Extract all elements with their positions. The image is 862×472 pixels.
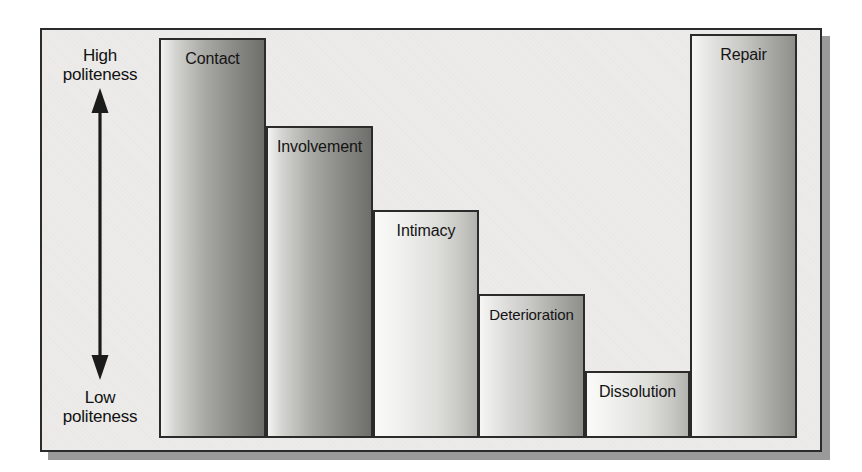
figure-stage: High politeness Low politeness ContactIn… — [0, 0, 862, 472]
bar-label-dissolution: Dissolution — [587, 383, 688, 401]
bar-label-intimacy: Intimacy — [375, 222, 477, 240]
bar-contact: Contact — [159, 38, 266, 438]
bar-label-deterioration: Deterioration — [480, 306, 583, 324]
bar-repair: Repair — [690, 34, 797, 438]
bar-label-involvement: Involvement — [268, 138, 371, 156]
bars-layer: ContactInvolvementIntimacyDeteriorationD… — [42, 30, 820, 450]
bar-label-contact: Contact — [161, 50, 264, 68]
bar-deterioration: Deterioration — [478, 294, 585, 438]
plot-area: High politeness Low politeness ContactIn… — [42, 30, 820, 450]
bar-involvement: Involvement — [266, 126, 373, 438]
bar-label-repair: Repair — [692, 46, 795, 64]
bar-intimacy: Intimacy — [373, 210, 479, 438]
bar-dissolution: Dissolution — [585, 371, 690, 438]
figure-frame: High politeness Low politeness ContactIn… — [40, 28, 822, 452]
